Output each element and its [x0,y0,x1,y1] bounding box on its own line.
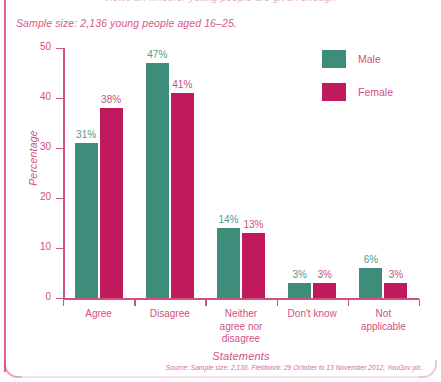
x-axis-category-label-line: agree nor [205,321,276,334]
x-axis-category-label: Disagree [134,308,205,321]
bar-value-label: 6% [364,254,378,265]
y-axis-tick-label: 50 [40,41,51,52]
x-axis-line [63,298,419,300]
legend-item-female: Female [322,83,393,101]
bar-value-label: 41% [172,79,192,90]
x-axis-category-label: Agree [63,308,134,321]
x-axis-category-label-line: Neither [205,308,276,321]
y-axis-tick-mark [56,48,64,49]
x-axis-category-label-line: Disagree [134,308,205,321]
x-axis-tick-mark [348,299,349,306]
y-axis-tick: 50 [56,48,64,49]
bar-male: 6% [359,268,382,298]
x-axis-tick-mark [205,299,206,306]
x-axis-tick-mark [134,299,135,306]
x-axis-category-label-line: Not [348,308,419,321]
bar-value-label: 13% [243,219,263,230]
chart-page: views on whether young people are given … [0,0,441,382]
x-axis-category-label: Neitheragree nordisagree [205,308,276,346]
bar-value-label: 47% [147,49,167,60]
x-axis-tick-mark [277,299,278,306]
y-axis-tick-mark [56,148,64,149]
y-axis-tick-mark [56,198,64,199]
chart-legend: Male Female [322,50,393,116]
y-axis-title: Percentage [27,113,39,203]
y-axis-line [63,48,65,299]
y-axis-tick-label: 0 [45,291,51,302]
x-axis-title: Statements [63,350,419,362]
x-axis-category-label-line: Don't know [277,308,348,321]
y-axis-tick: 40 [56,98,64,99]
bar-female: 38% [100,108,123,298]
x-axis-category-label-line: Agree [63,308,134,321]
bar-value-label: 38% [101,94,121,105]
y-axis-tick-label: 40 [40,91,51,102]
y-axis-tick-mark [56,98,64,99]
bar-male: 47% [146,63,169,298]
bar-female: 3% [384,283,407,298]
bar-value-label: 3% [317,269,331,280]
bar-female: 13% [242,233,265,298]
y-axis-tick: 30 [56,148,64,149]
bar-male: 3% [288,283,311,298]
bar-value-label: 3% [292,269,306,280]
bar-value-label: 31% [76,129,96,140]
legend-swatch-male-icon [322,50,346,68]
bar-female: 41% [171,93,194,298]
x-axis-category-label-line: applicable [348,321,419,334]
legend-label-male: Male [358,53,381,65]
x-axis-category-label: Don't know [277,308,348,321]
x-axis-category-label: Notapplicable [348,308,419,333]
x-axis-category-label-line: disagree [205,333,276,346]
bar-male: 31% [75,143,98,298]
x-axis-tick-mark [63,299,64,306]
bar-female: 3% [313,283,336,298]
bar-value-label: 14% [218,214,238,225]
y-axis-tick: 10 [56,248,64,249]
y-axis-tick-mark [56,248,64,249]
legend-label-female: Female [358,86,393,98]
x-axis-tick-mark [419,299,420,306]
bar-value-label: 3% [389,269,403,280]
y-axis-tick-label: 10 [40,241,51,252]
legend-swatch-female-icon [322,83,346,101]
legend-item-male: Male [322,50,393,68]
y-axis-tick-label: 20 [40,191,51,202]
bar-male: 14% [217,228,240,298]
y-axis-tick-label: 30 [40,141,51,152]
y-axis-tick: 20 [56,198,64,199]
source-footnote: Source: Sample size: 2,136. Fieldwork: 2… [166,364,423,371]
